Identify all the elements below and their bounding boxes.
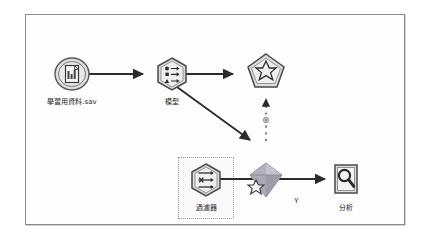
node-generated-model[interactable] xyxy=(234,155,298,204)
node-source-file[interactable]: 學習用資料.sav xyxy=(40,53,104,107)
node-model-build[interactable]: 模型 xyxy=(140,53,204,107)
node-model-build-label: 模型 xyxy=(140,98,204,107)
model-build-icon xyxy=(150,53,194,97)
magnifier-icon xyxy=(324,159,368,203)
model-nugget-icon xyxy=(244,49,288,93)
applier-field-label: Y xyxy=(294,197,299,204)
generated-model-diamond-icon xyxy=(242,155,290,203)
node-filter-label: 過濾器 xyxy=(174,204,238,213)
stream-canvas[interactable]: 學習用資料.sav 模型 xyxy=(25,14,405,225)
node-analysis-label: 分析 xyxy=(314,204,378,213)
statistics-file-icon xyxy=(50,53,94,97)
node-filter[interactable]: 過濾器 xyxy=(174,159,238,213)
node-source-file-label: 學習用資料.sav xyxy=(40,98,104,107)
filter-icon xyxy=(184,159,228,203)
screenshot-root: 學習用資料.sav 模型 xyxy=(0,0,424,239)
node-model-nugget[interactable] xyxy=(234,49,298,94)
node-analysis[interactable]: 分析 xyxy=(314,159,378,213)
link-dashed-midpoint-dot xyxy=(264,118,269,123)
